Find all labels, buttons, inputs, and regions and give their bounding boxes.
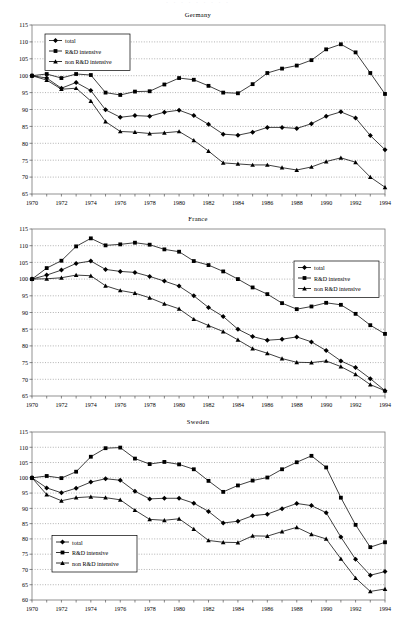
x-axis-tick-label: 1994 bbox=[379, 200, 391, 206]
y-axis-tick-label: 60 bbox=[22, 597, 28, 603]
x-axis-tick-label: 1984 bbox=[232, 200, 244, 206]
y-axis-tick-label: 90 bbox=[22, 506, 28, 512]
y-axis-tick-label: 105 bbox=[19, 460, 28, 466]
y-axis-tick-label: 90 bbox=[22, 107, 28, 113]
y-axis-tick-label: 65 bbox=[22, 582, 28, 588]
y-axis-tick-label: 110 bbox=[19, 445, 28, 451]
x-axis-tick-label: 1980 bbox=[173, 402, 185, 408]
x-axis-tick-label: 1974 bbox=[85, 402, 97, 408]
x-axis-tick-label: 1974 bbox=[85, 200, 97, 206]
legend-label: total bbox=[314, 265, 325, 271]
chart-legend: totalR&D intensivenon R&D intensive bbox=[294, 261, 379, 298]
y-axis-tick-label: 90 bbox=[22, 310, 28, 316]
x-axis-tick-label: 1972 bbox=[55, 200, 67, 206]
chart-title-sweden: Sweden bbox=[0, 417, 396, 426]
data-series-non-r-d-intensive bbox=[30, 73, 388, 189]
x-axis-tick-label: 1970 bbox=[26, 200, 38, 206]
line-chart-sweden: 6065707580859095100105110115197019721974… bbox=[0, 426, 396, 622]
y-axis-tick-label: 100 bbox=[19, 73, 28, 79]
x-axis-tick-label: 1974 bbox=[85, 606, 97, 612]
y-axis-tick-label: 80 bbox=[22, 536, 28, 542]
x-axis-tick-label: 1986 bbox=[261, 402, 273, 408]
y-axis-tick-label: 70 bbox=[22, 377, 28, 383]
x-axis-tick-label: 1990 bbox=[320, 606, 332, 612]
legend-label: R&D intensive bbox=[65, 49, 102, 55]
plot-area-sweden: 6065707580859095100105110115197019721974… bbox=[0, 426, 396, 622]
y-axis-tick-label: 110 bbox=[19, 39, 28, 45]
plot-area-germany: 6570758085909510010511011519701972197419… bbox=[0, 19, 396, 216]
y-axis-tick-label: 115 bbox=[19, 22, 28, 28]
x-axis-tick-label: 1970 bbox=[26, 402, 38, 408]
y-axis-tick-label: 110 bbox=[19, 243, 28, 249]
chart-panel-france: France 657075808590951001051101151970197… bbox=[0, 214, 396, 418]
chart-title-france: France bbox=[0, 214, 396, 223]
figure-page: · · · · · · · · · Germany 65707580859095… bbox=[0, 0, 396, 622]
x-axis-tick-label: 1984 bbox=[232, 606, 244, 612]
y-axis-tick-label: 75 bbox=[22, 551, 28, 557]
line-chart-france: 6570758085909510010511011519701972197419… bbox=[0, 223, 396, 418]
y-axis-tick-label: 75 bbox=[22, 360, 28, 366]
x-axis-tick-label: 1994 bbox=[379, 402, 391, 408]
x-axis-tick-label: 1988 bbox=[291, 606, 303, 612]
x-axis-tick-label: 1990 bbox=[320, 200, 332, 206]
y-axis-tick-label: 80 bbox=[22, 141, 28, 147]
y-axis-tick-label: 85 bbox=[22, 124, 28, 130]
legend-label: R&D intensive bbox=[72, 550, 109, 556]
y-axis-tick-label: 100 bbox=[19, 276, 28, 282]
chart-panel-germany: Germany 65707580859095100105110115197019… bbox=[0, 10, 396, 216]
x-axis-tick-label: 1978 bbox=[144, 402, 156, 408]
y-axis-tick-label: 85 bbox=[22, 327, 28, 333]
cut-off-header-text: · · · · · · · · · bbox=[0, 0, 396, 9]
legend-label: R&D intensive bbox=[314, 276, 351, 282]
x-axis-tick-label: 1988 bbox=[291, 402, 303, 408]
legend-label: non R&D intensive bbox=[314, 286, 361, 292]
legend-label: total bbox=[72, 540, 83, 546]
chart-panel-sweden: Sweden 606570758085909510010511011519701… bbox=[0, 417, 396, 622]
x-axis-tick-label: 1986 bbox=[261, 606, 273, 612]
x-axis-tick-label: 1976 bbox=[114, 200, 126, 206]
chart-title-germany: Germany bbox=[0, 10, 396, 19]
x-axis-tick-label: 1994 bbox=[379, 606, 391, 612]
x-axis-tick-label: 1978 bbox=[144, 606, 156, 612]
y-axis-tick-label: 65 bbox=[22, 191, 28, 197]
x-axis-tick-label: 1970 bbox=[26, 606, 38, 612]
x-axis-tick-label: 1992 bbox=[350, 200, 362, 206]
y-axis-tick-label: 80 bbox=[22, 343, 28, 349]
x-axis-tick-label: 1992 bbox=[350, 402, 362, 408]
plot-area-france: 6570758085909510010511011519701972197419… bbox=[0, 223, 396, 418]
x-axis-tick-label: 1986 bbox=[261, 200, 273, 206]
x-axis-tick-label: 1992 bbox=[350, 606, 362, 612]
y-axis-tick-label: 70 bbox=[22, 174, 28, 180]
y-axis-tick-label: 105 bbox=[19, 56, 28, 62]
x-axis-tick-label: 1982 bbox=[203, 606, 215, 612]
legend-label: non R&D intensive bbox=[72, 561, 119, 567]
x-axis-tick-label: 1976 bbox=[114, 402, 126, 408]
x-axis-tick-label: 1972 bbox=[55, 402, 67, 408]
x-axis-tick-label: 1980 bbox=[173, 606, 185, 612]
y-axis-tick-label: 70 bbox=[22, 567, 28, 573]
chart-legend: totalR&D intensivenon R&D intensive bbox=[52, 536, 137, 573]
x-axis-tick-label: 1972 bbox=[55, 606, 67, 612]
chart-legend: totalR&D intensivenon R&D intensive bbox=[45, 34, 130, 71]
x-axis-tick-label: 1976 bbox=[114, 606, 126, 612]
y-axis-tick-label: 95 bbox=[22, 293, 28, 299]
legend-label: total bbox=[65, 38, 76, 44]
y-axis-tick-label: 105 bbox=[19, 260, 28, 266]
x-axis-tick-label: 1984 bbox=[232, 402, 244, 408]
x-axis-tick-label: 1982 bbox=[203, 200, 215, 206]
legend-label: non R&D intensive bbox=[65, 59, 112, 65]
x-axis-tick-label: 1982 bbox=[203, 402, 215, 408]
y-axis-tick-label: 95 bbox=[22, 490, 28, 496]
y-axis-tick-label: 95 bbox=[22, 90, 28, 96]
x-axis-tick-label: 1988 bbox=[291, 200, 303, 206]
line-chart-germany: 6570758085909510010511011519701972197419… bbox=[0, 19, 396, 216]
y-axis-tick-label: 65 bbox=[22, 393, 28, 399]
y-axis-tick-label: 115 bbox=[19, 429, 28, 435]
y-axis-tick-label: 100 bbox=[19, 475, 28, 481]
y-axis-tick-label: 115 bbox=[19, 226, 28, 232]
x-axis-tick-label: 1980 bbox=[173, 200, 185, 206]
y-axis-tick-label: 75 bbox=[22, 158, 28, 164]
y-axis-tick-label: 85 bbox=[22, 521, 28, 527]
x-axis-tick-label: 1990 bbox=[320, 402, 332, 408]
x-axis-tick-label: 1978 bbox=[144, 200, 156, 206]
